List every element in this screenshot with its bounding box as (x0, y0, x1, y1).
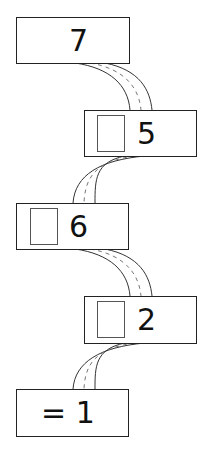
number-box-1: 7 (16, 17, 130, 64)
box-4-value: 2 (137, 305, 156, 335)
number-box-4: 2 (84, 296, 197, 344)
box-3-value: 6 (69, 212, 88, 242)
box-2-value: 5 (137, 119, 156, 149)
answer-blank-3[interactable] (97, 301, 125, 338)
answer-blank-1[interactable] (97, 115, 125, 152)
box-1-value: 7 (69, 26, 88, 56)
result-box: = 1 (16, 389, 129, 437)
answer-blank-2[interactable] (30, 208, 58, 245)
result-value: = 1 (41, 398, 95, 428)
number-box-2: 5 (84, 110, 197, 157)
number-box-3: 6 (16, 203, 129, 250)
